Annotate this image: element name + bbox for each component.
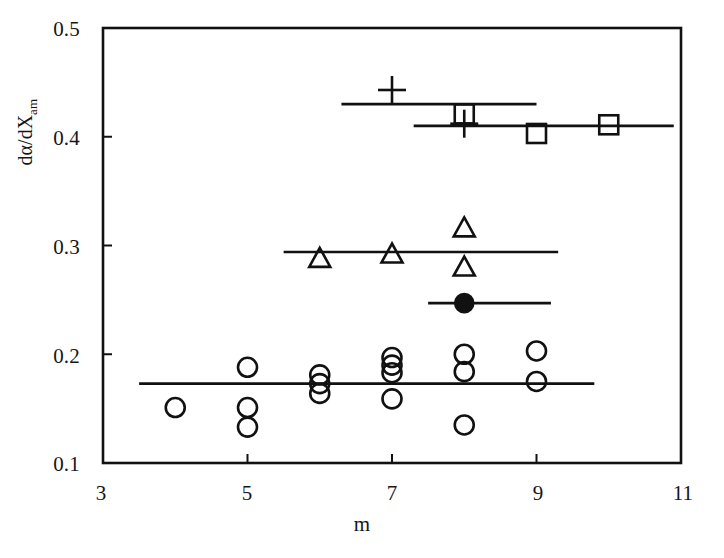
y-tick-label-0.2: 0.2	[34, 344, 80, 369]
marker-open-circle-2	[238, 398, 257, 417]
marker-open-triangle-0	[309, 248, 330, 267]
x-tick-label-3: 3	[81, 481, 121, 506]
y-axis-title-subscript: am	[25, 99, 40, 115]
marker-plus-0	[378, 76, 406, 104]
marker-open-circle-10	[383, 389, 402, 408]
marker-filled-circle-0	[455, 294, 473, 312]
x-axis-title: m	[0, 512, 724, 537]
marker-open-circle-1	[238, 358, 257, 377]
y-tick-label-0.3: 0.3	[34, 235, 80, 260]
x-tick-label-11: 11	[663, 481, 703, 506]
y-axis-title: dα/dXam	[14, 72, 41, 192]
scatter-plot-figure: 0.5 0.4 0.3 0.2 0.1 3 5 7 9 11 dα/dXam m	[0, 0, 724, 558]
trend-lines	[139, 104, 674, 383]
marker-open-circle-15	[527, 372, 546, 391]
x-tick-label-7: 7	[372, 481, 412, 506]
marker-open-triangle-3	[454, 257, 475, 276]
marker-open-circle-13	[455, 415, 474, 434]
y-tick-label-0.1: 0.1	[34, 452, 80, 477]
y-axis-title-main: dα/dX	[14, 115, 36, 165]
y-tick-label-0.5: 0.5	[34, 17, 80, 42]
x-tick-label-5: 5	[227, 481, 267, 506]
marker-open-circle-0	[166, 398, 185, 417]
plot-area	[0, 0, 724, 558]
marker-open-triangle-2	[454, 217, 475, 236]
marker-open-circle-14	[527, 341, 546, 360]
marker-open-circle-3	[238, 418, 257, 437]
x-tick-label-9: 9	[518, 481, 558, 506]
